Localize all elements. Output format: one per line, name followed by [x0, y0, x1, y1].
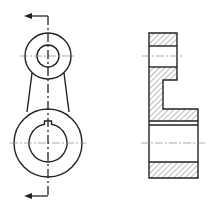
drawing-svg — [0, 0, 211, 211]
arm-right-edge — [64, 73, 69, 112]
hatch-web — [149, 67, 198, 121]
hatch-upper-top — [149, 33, 177, 46]
section-view — [141, 33, 206, 178]
arrow-bottom-head-icon — [24, 193, 32, 199]
hatch-lower-bottom — [149, 162, 198, 178]
arm-left-edge — [27, 73, 32, 112]
technical-drawing — [0, 0, 211, 211]
arrow-top-head-icon — [24, 13, 32, 19]
